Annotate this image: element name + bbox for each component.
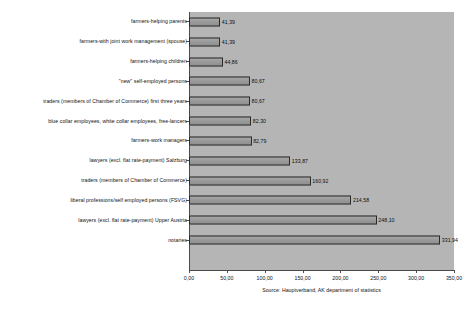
- category-label: blue collar employees, white collar empl…: [0, 118, 187, 125]
- x-axis-tick: [378, 270, 379, 273]
- bar-row: "new" self-employed persons80,67: [0, 71, 463, 91]
- bar-with-value: 133,87: [189, 156, 308, 165]
- bar-row: notaries331,94: [0, 230, 463, 250]
- x-axis-tick: [265, 270, 266, 273]
- x-axis-tick: [454, 270, 455, 273]
- bar-value-label: 82,30: [253, 118, 266, 125]
- bar-row: blue collar employees, white collar empl…: [0, 111, 463, 131]
- x-axis-tick-label: 150,00: [294, 274, 310, 282]
- bar: [189, 176, 311, 185]
- category-label: notaries: [0, 237, 187, 244]
- bar-with-value: 82,30: [189, 117, 266, 126]
- bar-value-label: 44,86: [224, 58, 237, 65]
- bar-value-label: 133,87: [292, 157, 308, 164]
- category-label: lawyers (excl. flat rate-payment) Upper …: [0, 217, 187, 224]
- bar-value-label: 331,94: [442, 237, 458, 244]
- bar-value-label: 248,10: [378, 217, 394, 224]
- bar-row: traders (members of Chamber of Commerce)…: [0, 171, 463, 191]
- bar-row: traders (members of Chamber of Commerce)…: [0, 91, 463, 111]
- bar-with-value: 80,67: [189, 97, 265, 106]
- bar-chart-figure: farmers-helping parents41,39farmers-with…: [0, 0, 463, 310]
- bar-row: liberal professions/self employed person…: [0, 190, 463, 210]
- bar: [189, 97, 250, 106]
- category-label: "new" self-employed persons: [0, 78, 187, 85]
- bar-rows-container: farmers-helping parents41,39farmers-with…: [0, 12, 463, 270]
- x-axis-tick-label: 100,00: [257, 274, 273, 282]
- bar-row: farmers-work managers82,79: [0, 131, 463, 151]
- bar: [189, 236, 440, 245]
- x-axis-tick-labels: 0,0050,00100,00150,00200,00250,00300,003…: [189, 274, 454, 283]
- bar-with-value: 331,94: [189, 236, 458, 245]
- category-label: liberal professions/self employed person…: [0, 197, 187, 204]
- bar-with-value: 248,10: [189, 216, 395, 225]
- bar: [189, 136, 252, 145]
- bar-value-label: 41,39: [222, 18, 235, 25]
- bar-with-value: 214,58: [189, 196, 369, 205]
- bar-value-label: 41,39: [222, 38, 235, 45]
- category-label: farmers-work managers: [0, 137, 187, 144]
- bar: [189, 216, 377, 225]
- bar-with-value: 41,39: [189, 37, 235, 46]
- source-note: Source: Hauptverband, AK department of s…: [189, 286, 454, 294]
- bar-value-label: 80,67: [252, 78, 265, 85]
- bar-row: lawyers (excl. flat rate-payment) Salzbu…: [0, 151, 463, 171]
- bar: [189, 117, 251, 126]
- bar-row: farmers-with joint work management (spou…: [0, 32, 463, 52]
- bar: [189, 17, 220, 26]
- x-axis-tick: [340, 270, 341, 273]
- bar-value-label: 80,67: [252, 98, 265, 105]
- x-axis-tick: [227, 270, 228, 273]
- category-label: lawyers (excl. flat rate-payment) Salzbu…: [0, 157, 187, 164]
- x-axis-tick: [416, 270, 417, 273]
- x-axis-tick: [189, 270, 190, 273]
- bar-with-value: 41,39: [189, 17, 235, 26]
- bar-with-value: 160,92: [189, 176, 329, 185]
- x-axis-tick-label: 0,00: [184, 274, 194, 282]
- x-axis-tick-label: 300,00: [408, 274, 424, 282]
- bar-row: farmers-helping parents41,39: [0, 12, 463, 32]
- category-label: farmers-helping children: [0, 58, 187, 65]
- category-label: farmers-with joint work management (spou…: [0, 38, 187, 45]
- category-label: traders (members of Chamber of Commerce): [0, 177, 187, 184]
- bar-with-value: 82,79: [189, 136, 266, 145]
- x-axis-tick: [303, 270, 304, 273]
- bar-with-value: 80,67: [189, 77, 265, 86]
- x-axis-tick-label: 350,00: [446, 274, 462, 282]
- category-label: farmers-helping parents: [0, 18, 187, 25]
- bar-row: lawyers (excl. flat rate-payment) Upper …: [0, 210, 463, 230]
- category-label: traders (members of Chamber of Commerce)…: [0, 98, 187, 105]
- bar-value-label: 160,92: [312, 177, 328, 184]
- bar: [189, 196, 351, 205]
- x-axis-tick-label: 250,00: [370, 274, 386, 282]
- bar: [189, 37, 220, 46]
- bar-value-label: 82,79: [253, 137, 266, 144]
- bar-value-label: 214,58: [353, 197, 369, 204]
- x-axis-tick-label: 50,00: [220, 274, 233, 282]
- bar-with-value: 44,86: [189, 57, 238, 66]
- bar-row: farmers-helping children44,86: [0, 52, 463, 72]
- bar: [189, 57, 223, 66]
- bar: [189, 156, 290, 165]
- bar: [189, 77, 250, 86]
- x-axis-tick-label: 200,00: [332, 274, 348, 282]
